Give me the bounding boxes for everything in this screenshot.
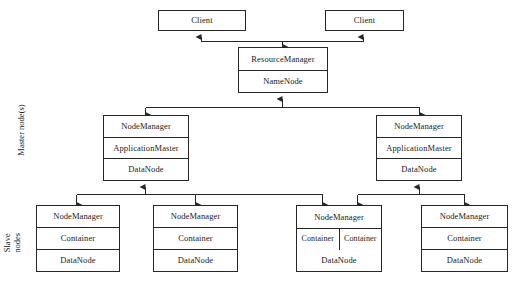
- master-nodemanager-box-1[interactable]: NodeManager ApplicationMaster DataNode: [103, 115, 189, 181]
- client-label: Client: [159, 11, 245, 30]
- applicationmaster-label: ApplicationMaster: [104, 137, 188, 159]
- container-label: Container: [154, 227, 237, 249]
- datanode-label: DataNode: [37, 249, 119, 271]
- container-label: Container: [422, 227, 507, 249]
- nodemanager-label: NodeManager: [154, 206, 237, 227]
- nodemanager-label: NodeManager: [297, 206, 381, 228]
- slave-node-box-1[interactable]: NodeManager Container DataNode: [36, 205, 120, 272]
- nodemanager-label: NodeManager: [104, 116, 188, 137]
- slave-node-box-4[interactable]: NodeManager Container DataNode: [421, 205, 508, 272]
- namenode-label: NameNode: [239, 70, 327, 93]
- container-row: Container Container: [297, 228, 381, 250]
- side-label-slave-line1: Slave: [2, 233, 12, 252]
- nodemanager-label: NodeManager: [37, 206, 119, 227]
- container-label: Container: [339, 229, 382, 250]
- client-label: Client: [326, 11, 403, 30]
- datanode-label: DataNode: [297, 250, 381, 272]
- master-nodemanager-box-2[interactable]: NodeManager ApplicationMaster DataNode: [376, 115, 462, 181]
- applicationmaster-label: ApplicationMaster: [377, 137, 461, 159]
- datanode-label: DataNode: [377, 158, 461, 180]
- side-label-slave-line2: nodes: [12, 233, 22, 253]
- resourcemanager-label: ResourceManager: [239, 48, 327, 70]
- side-label-slave: Slave nodes: [3, 222, 23, 264]
- nodemanager-label: NodeManager: [377, 116, 461, 137]
- datanode-label: DataNode: [154, 249, 237, 271]
- diagram-canvas: Master node(s) Slave nodes Client Client…: [0, 0, 519, 283]
- client-box-1[interactable]: Client: [158, 10, 246, 31]
- datanode-label: DataNode: [104, 158, 188, 180]
- container-label: Container: [37, 227, 119, 249]
- slave-node-box-3[interactable]: NodeManager Container Container DataNode: [296, 205, 382, 272]
- side-label-master: Master node(s): [16, 90, 26, 170]
- slave-node-box-2[interactable]: NodeManager Container DataNode: [153, 205, 238, 272]
- client-box-2[interactable]: Client: [325, 10, 404, 31]
- datanode-label: DataNode: [422, 249, 507, 271]
- resourcemanager-box[interactable]: ResourceManager NameNode: [238, 47, 328, 93]
- nodemanager-label: NodeManager: [422, 206, 507, 227]
- container-label: Container: [297, 229, 339, 250]
- side-label-master-text: Master node(s): [16, 104, 26, 155]
